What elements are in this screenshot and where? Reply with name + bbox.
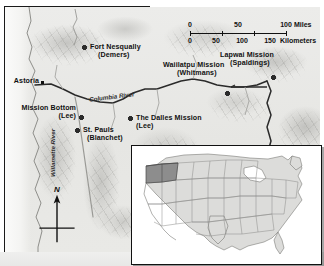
scale-miles-tick-0: 0 xyxy=(188,21,192,28)
place-name-astoria: Astoria xyxy=(5,77,39,85)
tributary-3 xyxy=(245,87,249,115)
place-name-fort-nesqually: Fort Nesqually xyxy=(90,43,141,51)
place-label-st-pauls: St. Pauls (Blanchet) xyxy=(83,126,123,142)
tributary-5 xyxy=(155,89,159,117)
marker-dalles-mission[interactable] xyxy=(127,115,133,121)
place-label-lapwai: Lapwai Mission (Spaldings) xyxy=(220,51,274,67)
marker-mission-bottom[interactable] xyxy=(78,114,84,120)
columbia-river xyxy=(35,79,267,103)
scale-kilometers-ticks: 0 50 100 150 Kilometers xyxy=(190,37,308,46)
place-sub-dalles-mission: (Lee) xyxy=(136,122,202,130)
place-name-dalles-mission: The Dalles Mission xyxy=(136,114,202,122)
place-name-lapwai: Lapwai Mission xyxy=(220,51,274,59)
page-margin-strip-top xyxy=(150,0,324,7)
scale-km-tick-100: 100 xyxy=(236,37,248,44)
scale-miles-ticks: 0 50 100 Miles xyxy=(190,21,308,30)
scale-miles-unit: Miles xyxy=(294,21,312,28)
scale-bar: 0 50 100 Miles 0 50 100 150 Kilometers xyxy=(190,21,308,46)
compass-rose: N xyxy=(33,185,81,251)
place-name-mission-bottom: Mission Bottom xyxy=(5,104,76,112)
place-sub-st-pauls: (Blanchet) xyxy=(83,134,123,142)
marker-fort-nesqually[interactable] xyxy=(81,44,87,50)
florida xyxy=(274,232,284,254)
inset-highlight-region xyxy=(146,163,178,183)
place-label-dalles-mission: The Dalles Mission (Lee) xyxy=(136,114,202,130)
place-label-astoria: Astoria xyxy=(5,77,39,85)
map-figure: Columbia River Willamette River Astoria … xyxy=(0,0,324,266)
marker-astoria[interactable] xyxy=(41,81,44,84)
marker-lapwai[interactable] xyxy=(270,74,276,80)
scale-km-tick-50: 50 xyxy=(212,37,220,44)
marker-st-pauls[interactable] xyxy=(74,127,80,133)
place-sub-fort-nesqually: (Demers) xyxy=(90,51,141,59)
us-map-svg xyxy=(132,146,321,264)
puget-sound xyxy=(73,9,77,45)
place-name-waiilatpu: Waiilatpu Mission xyxy=(163,61,224,69)
scale-km-tick-150: 150 xyxy=(264,37,276,44)
inset-locator-map xyxy=(131,145,322,265)
river-label-willamette: Willamette River xyxy=(49,129,56,177)
scale-bar-graphic xyxy=(190,31,308,36)
scale-km-tick-0: 0 xyxy=(188,37,192,44)
place-label-fort-nesqually: Fort Nesqually (Demers) xyxy=(90,43,141,59)
north-arrow-icon xyxy=(33,193,81,251)
scale-km-unit: Kilometers xyxy=(280,37,316,44)
scale-miles-tick-100: 100 xyxy=(280,21,292,28)
place-name-st-pauls: St. Pauls xyxy=(83,126,123,134)
marker-waiilatpu[interactable] xyxy=(224,90,230,96)
place-sub-lapwai: (Spaldings) xyxy=(220,59,274,67)
place-label-waiilatpu: Waiilatpu Mission (Whitmans) xyxy=(163,61,224,77)
place-label-mission-bottom: Mission Bottom (Lee) xyxy=(5,104,76,120)
place-sub-mission-bottom: (Lee) xyxy=(5,112,76,120)
scale-miles-tick-50: 50 xyxy=(234,21,242,28)
place-sub-waiilatpu: (Whitmans) xyxy=(163,69,224,77)
